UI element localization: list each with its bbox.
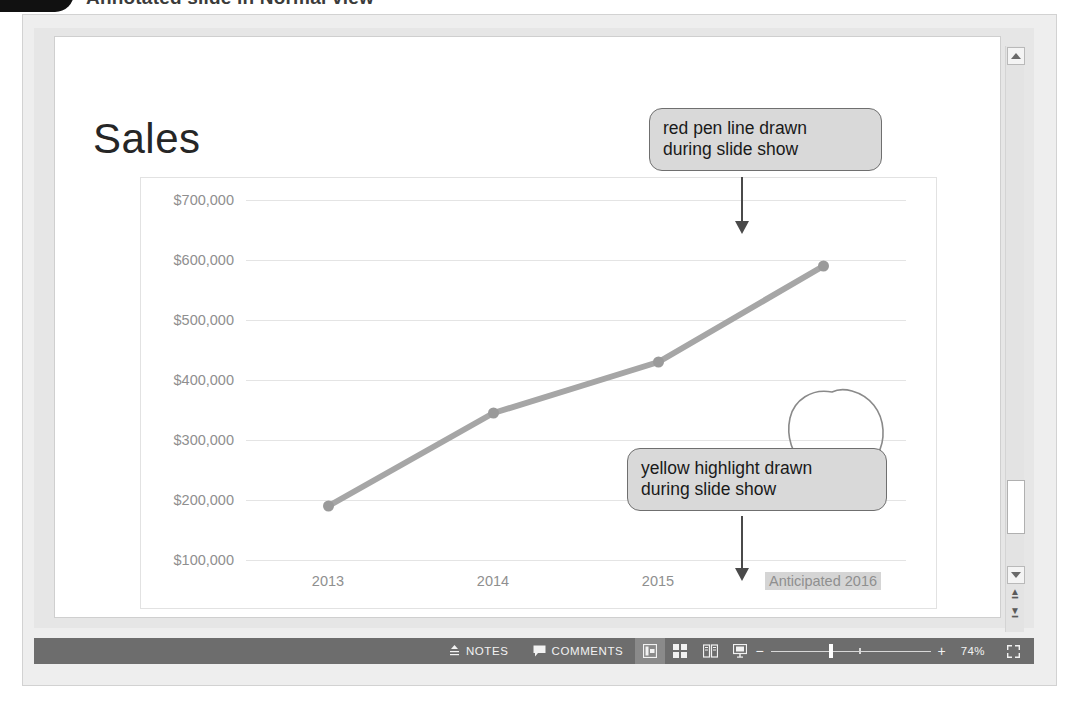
y-axis-label: $300,000 [174, 432, 234, 448]
gridline [246, 560, 906, 561]
slide-canvas[interactable]: Sales $700,000 $600,000 [54, 36, 1001, 618]
status-bar: NOTES COMMENTS [34, 638, 1034, 664]
zoom-out-button[interactable]: − [755, 644, 763, 658]
zoom-slider-tick [859, 648, 861, 654]
notes-button[interactable]: NOTES [437, 638, 521, 664]
reading-view-icon [703, 644, 718, 658]
x-axis-label: 2014 [473, 572, 513, 590]
slide-show-icon [733, 644, 747, 658]
callout-yellow-highlight: yellow highlight drawn during slide show [627, 448, 887, 511]
x-axis-label: 2013 [308, 572, 348, 590]
zoom-slider-track [771, 651, 931, 652]
figure-badge-icon [0, 0, 74, 12]
zoom-slider-thumb[interactable] [829, 644, 833, 658]
fit-to-window-button[interactable] [1000, 638, 1026, 664]
normal-view-icon [643, 644, 657, 658]
slide-show-view-button[interactable] [725, 638, 755, 664]
vertical-scrollbar[interactable]: ▲━ ▼━ [1005, 46, 1024, 632]
comments-label: COMMENTS [552, 645, 624, 657]
next-slide-icon[interactable]: ▼━ [1007, 606, 1023, 621]
slide-sorter-icon [673, 644, 687, 658]
y-axis-label: $200,000 [174, 492, 234, 508]
zoom-control[interactable]: − + 74% [755, 638, 1034, 664]
figure-caption: Annotated slide in Normal view [86, 0, 374, 9]
window-inner: Sales $700,000 $600,000 [22, 14, 1057, 686]
slide-title[interactable]: Sales [93, 115, 201, 163]
figure-caption-strip: Annotated slide in Normal view [0, 0, 1077, 13]
slide-sorter-view-button[interactable] [665, 638, 695, 664]
x-axis-label-highlighted: Anticipated 2016 [765, 572, 881, 590]
scroll-down-icon[interactable] [1007, 566, 1025, 584]
y-axis-label: $600,000 [174, 252, 234, 268]
scroll-up-icon[interactable] [1007, 47, 1025, 65]
y-axis-label: $400,000 [174, 372, 234, 388]
notes-icon [449, 645, 460, 657]
zoom-slider[interactable] [771, 638, 931, 664]
powerpoint-window: Sales $700,000 $600,000 [22, 14, 1057, 686]
previous-slide-icon[interactable]: ▲━ [1007, 587, 1023, 602]
scrollbar-thumb[interactable] [1007, 480, 1025, 534]
comment-bubble-icon [533, 645, 546, 657]
slide-edit-surface: Sales $700,000 $600,000 [34, 28, 1034, 628]
y-axis-label: $500,000 [174, 312, 234, 328]
zoom-percentage[interactable]: 74% [953, 645, 993, 657]
fit-to-window-icon [1007, 645, 1020, 658]
sales-chart[interactable]: $700,000 $600,000 $500,000 $400,000 $300… [140, 177, 937, 609]
notes-label: NOTES [466, 645, 509, 657]
zoom-in-button[interactable]: + [938, 644, 946, 658]
reading-view-button[interactable] [695, 638, 725, 664]
y-axis-label: $700,000 [174, 192, 234, 208]
normal-view-button[interactable] [635, 638, 665, 664]
comments-button[interactable]: COMMENTS [521, 638, 636, 664]
callout-red-pen: red pen line drawn during slide show [649, 108, 882, 171]
y-axis-label: $100,000 [174, 552, 234, 568]
x-axis-label: 2015 [638, 572, 678, 590]
